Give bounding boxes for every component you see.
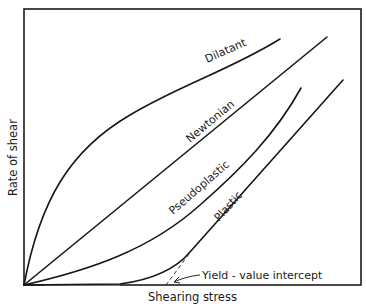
plastic-curve xyxy=(24,80,343,285)
plastic-label: Plastic xyxy=(212,189,245,224)
newtonian-curve xyxy=(24,37,327,285)
x-axis-label: Shearing stress xyxy=(148,290,237,304)
y-axis-label: Rate of shear xyxy=(6,119,20,196)
flow-curves-diagram: Dilatant Newtonian Pseudoplastic Plastic… xyxy=(0,0,366,306)
pseudoplastic-curve xyxy=(24,88,301,285)
dilatant-curve xyxy=(24,39,280,285)
newtonian-label: Newtonian xyxy=(184,98,237,146)
dilatant-label: Dilatant xyxy=(203,36,249,66)
yield-value-annotation: Yield - value intercept xyxy=(201,269,323,282)
